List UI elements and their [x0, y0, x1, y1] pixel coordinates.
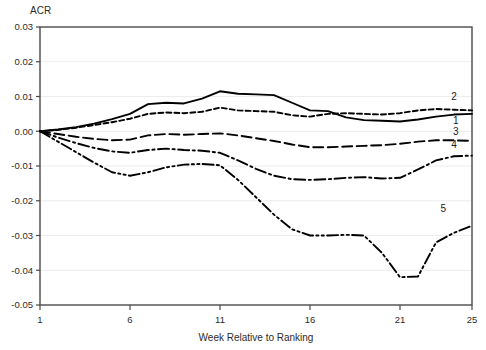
x-axis-title: Week Relative to Ranking	[199, 332, 314, 343]
series-label-2: 2	[451, 91, 457, 102]
y-tick-label: -0.02	[11, 195, 33, 206]
y-tick-label: -0.04	[11, 265, 33, 276]
y-tick-label: 0.03	[15, 21, 34, 32]
y-tick-label: -0.03	[11, 230, 33, 241]
data-series-lines	[40, 91, 472, 277]
acr-line-chart: 0.030.020.010.00-0.01-0.02-0.03-0.04-0.0…	[0, 0, 486, 350]
y-tick-label: 0.01	[15, 91, 34, 102]
x-tick-label: 1	[37, 314, 42, 325]
y-tick-label: 0.00	[15, 126, 34, 137]
x-tick-label: 6	[127, 314, 132, 325]
x-tick-label: 16	[305, 314, 316, 325]
x-tick-label: 11	[215, 314, 225, 325]
axis-tickmarks	[36, 27, 472, 310]
y-tick-label: -0.01	[11, 160, 33, 171]
series-line-2	[40, 108, 472, 132]
x-tick-label: 21	[395, 314, 406, 325]
series-line-3	[40, 131, 472, 147]
y-tick-label: 0.02	[15, 56, 34, 67]
x-tick-label: 25	[467, 314, 478, 325]
y-tick-label: -0.05	[11, 299, 33, 310]
x-axis-tick-labels: 1611162125	[37, 314, 477, 325]
series-line-5	[40, 131, 472, 277]
chart-container: 0.030.020.010.00-0.01-0.02-0.03-0.04-0.0…	[0, 0, 486, 350]
series-label-1: 1	[453, 115, 459, 126]
y-axis-title: ACR	[30, 5, 51, 16]
y-axis-tick-labels: 0.030.020.010.00-0.01-0.02-0.03-0.04-0.0…	[11, 21, 33, 310]
series-label-3: 3	[453, 126, 459, 137]
gridlines	[40, 62, 472, 271]
series-label-4: 4	[451, 139, 457, 150]
series-label-5: 5	[440, 203, 446, 214]
